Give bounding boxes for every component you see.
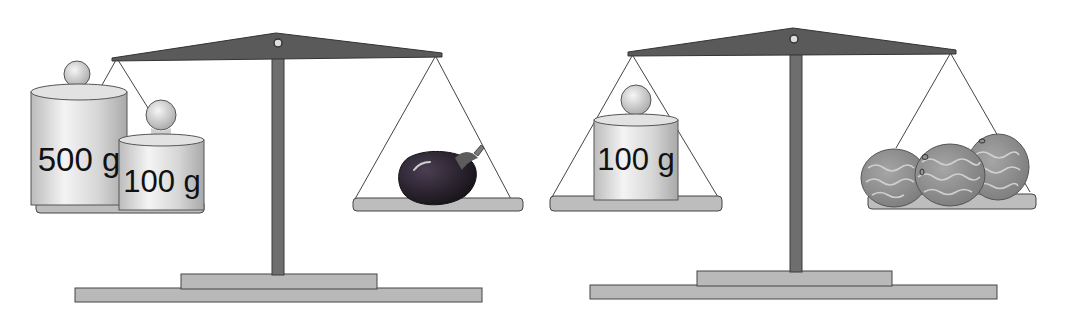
- scale-base-top: [181, 274, 377, 289]
- left-scale: 500 g 100 g: [31, 33, 523, 302]
- pivot-icon: [274, 39, 282, 47]
- weight-500g: 500 g: [31, 61, 127, 205]
- pivot-icon: [790, 35, 798, 43]
- scale-base-bottom: [75, 288, 482, 302]
- svg-text:500 g: 500 g: [38, 141, 121, 178]
- scale-base-top: [697, 271, 892, 286]
- right-scale: 100 g: [550, 28, 1036, 299]
- balance-scales-illustration: 500 g 100 g: [0, 0, 1072, 330]
- scale-post: [272, 38, 284, 275]
- scale-base-bottom: [590, 285, 997, 299]
- weight-100g: 100 g: [594, 85, 678, 200]
- melon-icon: [915, 144, 985, 206]
- svg-text:100 g: 100 g: [597, 142, 675, 177]
- weight-100g: 100 g: [119, 100, 204, 210]
- svg-text:100 g: 100 g: [123, 164, 201, 199]
- eggplant-icon: [399, 145, 484, 205]
- scale-post: [790, 35, 802, 272]
